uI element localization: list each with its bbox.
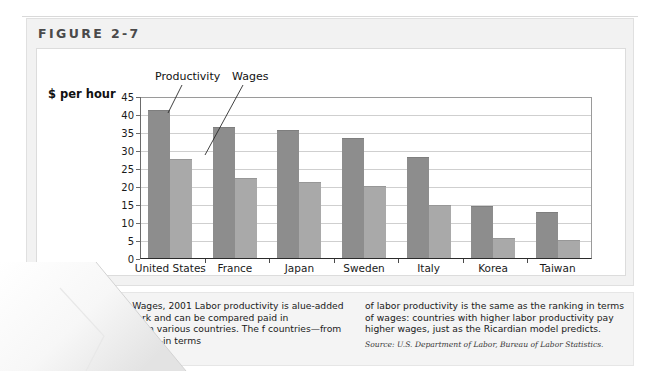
x-axis-label-united-states: United States [135, 262, 206, 274]
x-axis-tick [527, 259, 528, 263]
x-axis-tick [334, 259, 335, 263]
y-axis-tick-labels: 051015202530354045 [108, 97, 134, 259]
plot-frame [140, 97, 592, 259]
y-axis-tick-label: 15 [110, 200, 134, 211]
annotation-wages: Wages [232, 70, 268, 83]
annotation-productivity: Productivity [155, 70, 220, 83]
x-axis-label-korea: Korea [478, 262, 508, 274]
y-axis-tick-label: 25 [110, 164, 134, 175]
y-axis-tick-label: 45 [110, 92, 134, 103]
textbook-page: FIGURE 2-7 $ per hour 051015202530354045… [0, 0, 646, 371]
x-axis-tick [398, 259, 399, 263]
x-axis-label-italy: Italy [417, 262, 440, 274]
caption-source: Source: U.S. Department of Labor, Bureau… [365, 340, 631, 349]
y-axis-tick-label: 10 [110, 218, 134, 229]
plot-area [140, 97, 592, 259]
y-axis-tick-label: 20 [110, 182, 134, 193]
page-edge-line [22, 16, 638, 17]
y-axis-tick-label: 30 [110, 146, 134, 157]
x-axis-label-taiwan: Taiwan [540, 262, 576, 274]
y-axis-tick-label: 5 [110, 236, 134, 247]
x-axis-tick [463, 259, 464, 263]
x-axis-tick [269, 259, 270, 263]
y-axis-tick-label: 0 [110, 254, 134, 265]
y-axis-title: $ per hour [48, 87, 116, 101]
figure-label: FIGURE 2-7 [38, 26, 141, 41]
figure-caption: uctivity and Wages, 2001 Labor productiv… [60, 292, 634, 366]
caption-left-column: uctivity and Wages, 2001 Labor productiv… [75, 300, 355, 346]
y-axis-tick-label: 35 [110, 128, 134, 139]
x-axis-label-france: France [217, 262, 252, 274]
x-axis-label-japan: Japan [285, 262, 314, 274]
y-axis-tick-label: 40 [110, 110, 134, 121]
caption-right-column: of labor productivity is the same as the… [365, 300, 631, 335]
y-axis-tick [136, 259, 140, 260]
x-axis-label-sweden: Sweden [343, 262, 385, 274]
